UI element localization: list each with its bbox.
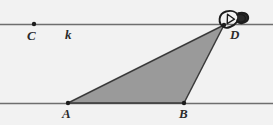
point-label-A: A: [62, 107, 71, 120]
point-B-dot: [182, 101, 186, 105]
geometry-diagram-canvas: C k D A B: [0, 0, 273, 125]
line-label-k: k: [65, 28, 72, 41]
point-label-D: D: [230, 28, 239, 41]
geometry-figure: [0, 0, 273, 125]
point-C-dot: [32, 22, 36, 26]
point-label-B: B: [179, 107, 188, 120]
point-label-C: C: [27, 29, 36, 42]
point-A-dot: [66, 101, 70, 105]
